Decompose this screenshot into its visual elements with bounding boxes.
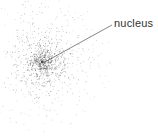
nucleus-point (41, 61, 43, 63)
nucleus-label: nucleus (114, 17, 153, 29)
electron-cloud (0, 0, 111, 132)
